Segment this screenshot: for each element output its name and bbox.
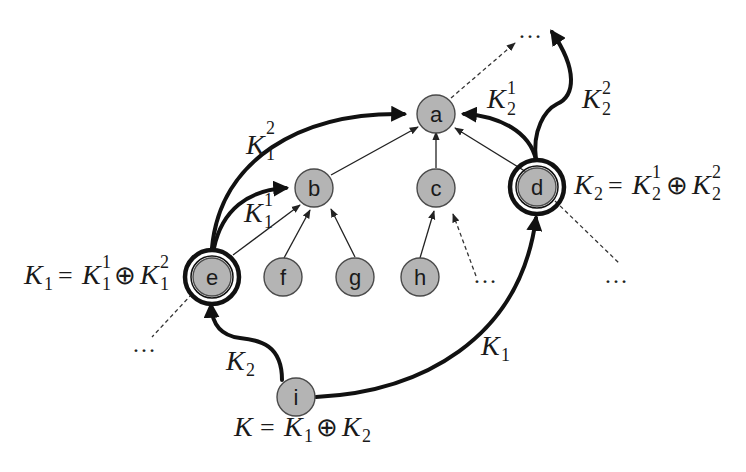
node-f-label: f [280,265,287,290]
equation-e: K 1 = K 1 1 ⊕ K 2 1 [23,252,169,294]
edge-b-a [331,127,418,175]
edge-d-a-K2-1 [464,114,536,160]
highlight-rings [185,160,564,304]
svg-text:1: 1 [507,78,516,98]
edge-label-K2-1: K 1 2 [486,78,516,119]
node-e-label: e [206,265,218,290]
svg-text:=: = [608,171,623,200]
equation-i: K = K 1 ⊕ K 2 [233,411,371,446]
node-f[interactable]: f [264,258,302,296]
edge-label-K1-1: K 1 1 [243,190,273,232]
svg-text:K: K [283,411,304,442]
node-i-label: i [294,385,299,410]
svg-text:2: 2 [246,360,255,380]
ellipsis-top: … [518,17,542,43]
svg-text:2: 2 [652,184,661,204]
edge-label-K1-2: K 2 1 [245,118,275,164]
svg-text:K: K [581,83,602,114]
ellipsis-e: … [132,331,156,357]
svg-text:1: 1 [44,274,53,294]
svg-text:2: 2 [594,184,603,204]
svg-text:2: 2 [712,184,721,204]
edge-h-c [420,211,434,258]
node-c-label: c [431,176,442,201]
svg-text:K: K [480,330,501,361]
svg-text:K: K [341,411,362,442]
svg-text:2: 2 [507,99,516,119]
svg-text:K: K [23,259,44,290]
svg-text:1: 1 [652,162,661,182]
svg-text:=: = [58,261,73,290]
svg-text:1: 1 [102,274,111,294]
edge-d-up-K2-2 [535,32,571,160]
edge-g-b [331,209,355,257]
svg-text:⊕: ⊕ [666,171,688,200]
node-d[interactable]: d [518,168,556,206]
svg-text:⊕: ⊕ [114,261,136,290]
svg-text:K: K [225,345,246,376]
svg-text:2: 2 [160,252,169,272]
edge-d-ellipsis [555,201,620,264]
thin-edges [233,127,528,258]
edge-f-b [284,210,310,258]
svg-text:2: 2 [362,426,371,446]
svg-text:K: K [245,129,266,160]
node-h[interactable]: h [401,258,439,296]
svg-text:K: K [631,169,652,200]
node-c[interactable]: c [417,169,455,207]
svg-text:⊕: ⊕ [316,413,338,442]
node-e[interactable]: e [193,258,231,296]
svg-text:2: 2 [602,99,611,119]
node-g-label: g [349,265,361,290]
node-h-label: h [414,265,426,290]
key-derivation-diagram: a b c d e f g h i … … … … K 2 1 K 1 1 K … [0,0,746,472]
edge-label-K2: K 2 [225,345,255,380]
svg-text:1: 1 [304,426,313,446]
svg-text:1: 1 [264,212,273,232]
svg-text:K: K [573,169,594,200]
node-b[interactable]: b [295,169,333,207]
node-b-label: b [308,176,320,201]
edge-label-K2-2: K 2 2 [581,78,611,119]
node-d-label: d [531,175,543,200]
edge-e-ellipsis [152,294,192,337]
ellipsis-d: … [604,262,628,288]
node-a[interactable]: a [417,95,455,133]
svg-text:1: 1 [264,190,273,210]
svg-text:2: 2 [712,162,721,182]
svg-text:1: 1 [160,274,169,294]
svg-text:K: K [139,259,160,290]
svg-text:K: K [486,83,507,114]
diagram-canvas: a b c d e f g h i … … … … K 2 1 K 1 1 K … [0,0,746,472]
equation-d: K 2 = K 1 2 ⊕ K 2 2 [573,162,721,204]
svg-text:K: K [243,197,264,228]
svg-text:1: 1 [501,345,510,365]
edge-label-K1: K 1 [480,330,510,365]
svg-text:1: 1 [102,252,111,272]
svg-text:2: 2 [266,118,275,138]
svg-text:K: K [233,411,254,442]
svg-text:2: 2 [602,78,611,98]
svg-text:K: K [81,259,102,290]
ellipsis-c: … [473,262,497,288]
svg-text:=: = [260,413,275,442]
node-g[interactable]: g [336,258,374,296]
node-a-label: a [430,102,443,127]
svg-text:K: K [691,169,712,200]
svg-text:1: 1 [266,144,275,164]
